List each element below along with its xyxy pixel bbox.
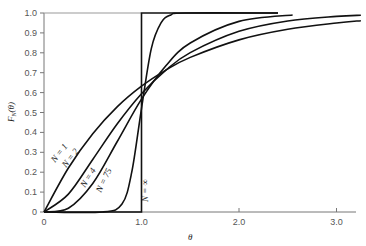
y-axis-label: FN(θ) xyxy=(6,102,17,123)
curve-N1 xyxy=(44,21,361,212)
y-tick-label: 0.1 xyxy=(24,187,37,197)
x-tick-label: 2.0 xyxy=(233,217,246,227)
x-tick-label: 0 xyxy=(41,217,46,227)
y-tick-label: 0.8 xyxy=(24,48,37,58)
y-tick-label: 0.3 xyxy=(24,147,37,157)
y-tick-label: 0.4 xyxy=(24,127,37,137)
x-tick-label: 1.0 xyxy=(135,217,148,227)
y-tick-label: 0.9 xyxy=(24,28,37,38)
cdf-chart: 00.10.20.30.40.50.60.70.80.91.001.02.03.… xyxy=(0,0,366,246)
y-tick-label: 0.7 xyxy=(24,68,37,78)
y-tick-label: 0.5 xyxy=(24,108,37,118)
y-tick-label: 0.2 xyxy=(24,167,37,177)
y-tick-label: 0 xyxy=(32,207,37,217)
x-tick-label: 3.0 xyxy=(330,217,343,227)
y-tick-label: 1.0 xyxy=(24,8,37,18)
y-tick-label: 0.6 xyxy=(24,88,37,98)
x-axis-label: θ xyxy=(188,232,193,242)
curve-N2 xyxy=(44,15,361,212)
series-label: N = ∞ xyxy=(140,179,150,203)
